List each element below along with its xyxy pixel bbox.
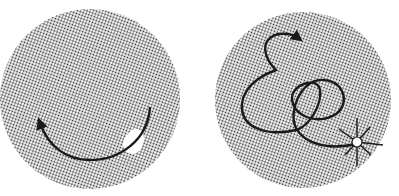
diagram-canvas xyxy=(0,0,399,196)
right-white-spot xyxy=(352,137,362,147)
right-stippled-field xyxy=(215,12,391,188)
right-panel xyxy=(215,12,391,188)
figure xyxy=(0,0,399,196)
left-panel xyxy=(0,9,180,189)
left-stippled-field xyxy=(0,9,180,189)
